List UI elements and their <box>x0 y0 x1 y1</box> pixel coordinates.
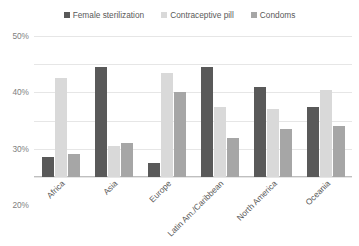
bar[interactable] <box>174 92 186 177</box>
y-axis-tick-label: 20% <box>12 201 29 209</box>
bar-group <box>87 36 140 177</box>
bar[interactable] <box>254 87 266 177</box>
bar[interactable] <box>161 73 173 177</box>
legend-swatch-icon <box>251 12 257 18</box>
legend-item[interactable]: Condoms <box>251 11 296 19</box>
bar[interactable] <box>148 163 160 177</box>
bar[interactable] <box>333 126 345 177</box>
bar[interactable] <box>121 143 133 177</box>
legend-item[interactable]: Contraceptive pill <box>161 11 234 19</box>
bar[interactable] <box>55 78 67 177</box>
y-axis-tick-label: 30% <box>12 145 29 153</box>
bar[interactable] <box>307 107 319 178</box>
legend-item[interactable]: Female sterilization <box>64 11 144 19</box>
legend-swatch-icon <box>161 12 167 18</box>
chart-legend: Female sterilizationContraceptive pillCo… <box>0 11 359 19</box>
legend-label: Contraceptive pill <box>170 11 234 19</box>
x-axis-label-cell: Asia <box>87 177 140 246</box>
y-axis-tick-label: 50% <box>12 32 29 40</box>
bar[interactable] <box>320 90 332 177</box>
bar-group <box>34 36 87 177</box>
bar-group <box>140 36 193 177</box>
bar[interactable] <box>108 146 120 177</box>
bar-group <box>299 36 352 177</box>
x-axis-tick-label: Europe <box>148 179 173 204</box>
x-axis-label-cell: Africa <box>34 177 87 246</box>
legend-label: Female sterilization <box>73 11 144 19</box>
bar[interactable] <box>214 107 226 178</box>
bar[interactable] <box>68 154 80 177</box>
x-axis-label-cell: North America <box>246 177 299 246</box>
bar[interactable] <box>42 157 54 177</box>
plot-area: 0%10%20%30%40%50% <box>34 36 352 177</box>
bar-group <box>193 36 246 177</box>
bar-chart: Female sterilizationContraceptive pillCo… <box>0 0 359 246</box>
bar[interactable] <box>227 138 239 177</box>
x-axis-labels: AfricaAsiaEuropeLatin Am./CaribbeanNorth… <box>34 177 352 246</box>
x-axis-tick-label: Asia <box>102 179 120 197</box>
bar-groups <box>34 36 352 177</box>
bar[interactable] <box>95 67 107 177</box>
bar[interactable] <box>267 109 279 177</box>
legend-label: Condoms <box>260 11 296 19</box>
legend-swatch-icon <box>64 12 70 18</box>
bar[interactable] <box>201 67 213 177</box>
y-axis-tick-label: 40% <box>12 88 29 96</box>
x-axis-tick-label: Oceania <box>304 179 332 207</box>
x-axis-label-cell: Oceania <box>299 177 352 246</box>
x-axis-tick-label: Africa <box>45 179 66 200</box>
bar[interactable] <box>280 129 292 177</box>
bar-group <box>246 36 299 177</box>
